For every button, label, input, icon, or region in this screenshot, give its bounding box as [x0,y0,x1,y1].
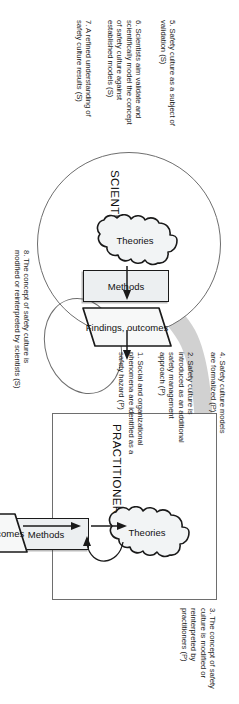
diagram-canvas: PRACTITIONERS Theories Methods Findings,… [0,0,239,704]
annotation-1: 1. Social and organizational phenomena a… [117,352,145,460]
annotation-3: 3. The concept of safety culture is modi… [180,608,217,694]
annotation-5: 5. Safety culture as a subject of valida… [159,20,178,130]
annotation-8: 8. The concept of safety culture is modi… [13,250,32,440]
scientists-flow-arrows [59,240,179,360]
practitioners-flow-arrows [19,480,219,600]
figure-rotation-wrapper: PRACTITIONERS Theories Methods Findings,… [0,0,239,704]
annotation-2: 2. Safety culture is introduced as an ad… [158,352,195,456]
annotation-7: 7. A refined understanding of safety cul… [75,20,94,138]
annotation-6: 6. Scientists aim validate and scientifi… [106,20,143,138]
annotation-4: 4. Safety culture models are formalized … [209,352,228,456]
